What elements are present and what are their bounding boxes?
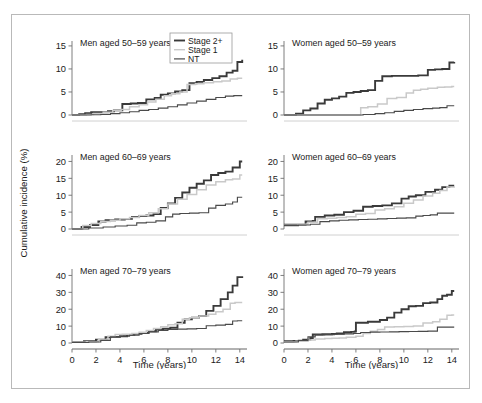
- legend: Stage 2+Stage 1NT: [170, 33, 232, 64]
- svg-text:10: 10: [187, 355, 197, 365]
- panel-title: Women aged 60–69 years: [292, 152, 397, 162]
- curve-stage-1: [72, 302, 242, 342]
- curve-stage-2: [72, 60, 242, 115]
- panel-title: Women aged 50–59 years: [292, 38, 397, 48]
- svg-text:0: 0: [61, 224, 66, 234]
- svg-text:10: 10: [268, 64, 278, 74]
- svg-text:5: 5: [273, 208, 278, 218]
- svg-text:4: 4: [117, 355, 122, 365]
- svg-text:20: 20: [268, 305, 278, 315]
- svg-text:20: 20: [268, 157, 278, 167]
- svg-text:0: 0: [61, 110, 66, 120]
- svg-text:0: 0: [273, 110, 278, 120]
- x-axis-title: Time (years): [133, 359, 186, 369]
- svg-text:5: 5: [61, 87, 66, 97]
- svg-text:12: 12: [211, 355, 221, 365]
- svg-text:0: 0: [273, 338, 278, 348]
- panel-top-right: 051015Women aged 50–59 years: [260, 23, 465, 141]
- svg-text:Cumulative incidence (%): Cumulative incidence (%): [18, 149, 29, 258]
- svg-text:15: 15: [56, 41, 66, 51]
- panel-middle-left: 05101520Men aged 60–69 years: [48, 137, 253, 255]
- svg-text:0: 0: [61, 338, 66, 348]
- svg-text:5: 5: [61, 208, 66, 218]
- svg-text:4: 4: [329, 355, 334, 365]
- svg-text:20: 20: [56, 157, 66, 167]
- y-axis-title: Cumulative incidence (%): [14, 15, 34, 394]
- svg-text:12: 12: [423, 355, 433, 365]
- panel-title: Men aged 50–59 years: [80, 38, 171, 48]
- curve-nt: [284, 213, 454, 226]
- panel-top-left: 051015Men aged 50–59 yearsStage 2+Stage …: [48, 23, 253, 141]
- panel-middle-right: 05101520Women aged 60–69 years: [260, 137, 465, 255]
- figure-frame: 051015Men aged 50–59 yearsStage 2+Stage …: [11, 14, 470, 389]
- panel-bottom-left: 01020304002468101214Time (years)Men aged…: [48, 251, 253, 369]
- svg-text:2: 2: [93, 355, 98, 365]
- svg-text:0: 0: [69, 355, 74, 365]
- curve-stage-2: [72, 161, 242, 229]
- svg-text:10: 10: [268, 322, 278, 332]
- panel-title: Women aged 70–79 years: [292, 266, 397, 276]
- svg-text:15: 15: [268, 174, 278, 184]
- svg-text:0: 0: [281, 355, 286, 365]
- panel-title: Men aged 60–69 years: [80, 152, 171, 162]
- svg-text:5: 5: [273, 87, 278, 97]
- svg-text:10: 10: [56, 322, 66, 332]
- panel-grid: 051015Men aged 50–59 yearsStage 2+Stage …: [12, 15, 469, 388]
- svg-text:10: 10: [268, 191, 278, 201]
- panel-bottom-right: 01020304002468101214Time (years)Women ag…: [260, 251, 465, 369]
- svg-text:20: 20: [56, 305, 66, 315]
- svg-text:15: 15: [268, 41, 278, 51]
- svg-text:15: 15: [56, 174, 66, 184]
- svg-text:0: 0: [273, 224, 278, 234]
- legend-label: NT: [188, 54, 200, 64]
- svg-text:30: 30: [56, 288, 66, 298]
- svg-text:40: 40: [268, 271, 278, 281]
- svg-text:2: 2: [305, 355, 310, 365]
- svg-text:10: 10: [56, 64, 66, 74]
- panel-title: Men aged 70–79 years: [80, 266, 171, 276]
- svg-text:30: 30: [268, 288, 278, 298]
- svg-text:14: 14: [235, 355, 245, 365]
- svg-text:40: 40: [56, 271, 66, 281]
- svg-text:14: 14: [447, 355, 457, 365]
- svg-text:10: 10: [399, 355, 409, 365]
- svg-text:10: 10: [56, 191, 66, 201]
- x-axis-title: Time (years): [345, 359, 398, 369]
